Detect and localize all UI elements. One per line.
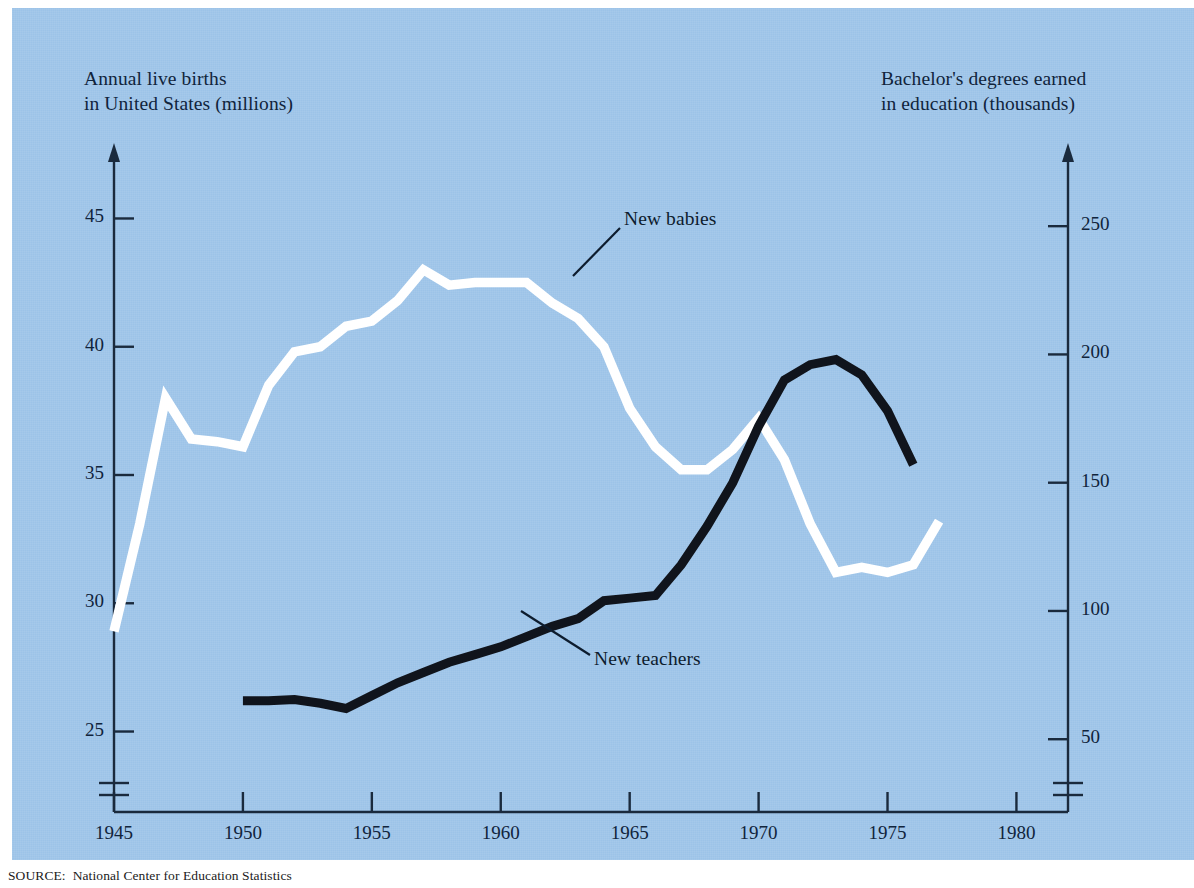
source-note: SOURCE: National Center for Education St… <box>8 868 292 884</box>
annotation-leader <box>573 228 620 276</box>
figure-root: Annual live births in United States (mil… <box>0 0 1194 888</box>
series-layer <box>114 270 939 709</box>
chart-canvas <box>0 0 1194 888</box>
right-axis-line-arrowhead <box>1062 143 1074 162</box>
series-line-new-babies <box>114 270 939 632</box>
axes-layer <box>99 143 1083 812</box>
left-axis-line-arrowhead <box>108 143 120 162</box>
